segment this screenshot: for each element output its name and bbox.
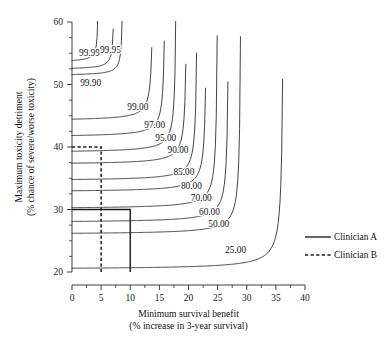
contour-label: 99.90	[80, 78, 101, 88]
contour-label: 97.00	[144, 120, 165, 130]
x-tick-label: 0	[70, 293, 75, 303]
contour-label: 85.00	[173, 167, 194, 177]
x-tick-label: 25	[213, 293, 223, 303]
y-axis-subtitle: (% chance of severe/worse toxicity)	[25, 78, 37, 216]
y-tick-label: 40	[54, 142, 64, 152]
axes-group	[67, 22, 305, 290]
contour-label: 99.95	[100, 45, 121, 55]
contour-label: 90.00	[168, 145, 189, 155]
y-tick-label: 20	[54, 267, 64, 277]
y-tick-label: 50	[54, 80, 64, 90]
contour-label: 70.00	[191, 193, 212, 203]
x-tick-label: 5	[99, 293, 104, 303]
x-tick-label: 40	[300, 293, 310, 303]
legend-label: Clinician A	[334, 232, 377, 242]
y-tick-label: 30	[54, 205, 64, 215]
y-axis-title: Maximum toxicity detriment	[13, 91, 24, 202]
tick-labels-group: 20304050600510152025303540	[54, 17, 311, 303]
contour-label: 95.00	[155, 133, 176, 143]
legend-label: Clinician B	[334, 250, 377, 260]
x-axis-title: Minimum survival benefit	[138, 308, 239, 319]
contour-line	[72, 53, 197, 179]
contour-label: 80.00	[181, 181, 202, 191]
contour-label: 25.00	[225, 245, 246, 255]
reference-lines-group	[72, 147, 130, 272]
x-tick-label: 20	[184, 293, 194, 303]
x-axis-subtitle: (% increase in 3-year survival)	[129, 320, 247, 332]
contour-plot-figure: 99.9999.9999.9599.9599.9099.9099.0099.00…	[0, 0, 391, 347]
x-tick-label: 10	[126, 293, 136, 303]
contour-label: 50.00	[208, 219, 229, 229]
x-tick-label: 35	[271, 293, 281, 303]
x-tick-label: 30	[242, 293, 252, 303]
contour-label: 60.00	[199, 207, 220, 217]
x-tick-label: 15	[155, 293, 165, 303]
y-tick-label: 60	[54, 17, 64, 27]
legend-group: Clinician AClinician B	[305, 232, 377, 260]
contour-label: 99.99	[79, 48, 100, 58]
contour-plot-svg: 99.9999.9999.9599.9599.9099.9099.0099.00…	[0, 0, 391, 347]
contour-lines-group	[72, 0, 283, 268]
contour-label: 99.00	[127, 102, 148, 112]
